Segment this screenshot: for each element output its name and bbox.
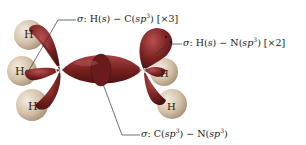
label-text: ) − N( <box>180 128 210 139</box>
label-text: 3 <box>253 36 257 43</box>
carbon-label: C <box>55 65 62 75</box>
label-text: ) − C( <box>107 13 136 24</box>
label-text: 3 <box>220 127 224 134</box>
label-text: ) [×2] <box>257 37 285 48</box>
label-text: : C( <box>148 128 165 139</box>
amine-group: H H N <box>139 28 187 119</box>
label-text: ) [×3] <box>150 13 178 24</box>
nh-bond-label: σ: H(s) − N(sp3) [×2] <box>183 38 285 48</box>
cn-sigma-bond <box>62 54 142 86</box>
label-text: sp <box>135 13 146 24</box>
cn-overlap-region <box>91 54 111 86</box>
ch-bond-label: σ: H(s) − C(sp3) [×3] <box>77 14 178 24</box>
label-text: : H( <box>190 37 208 48</box>
hydrogen-label: H <box>167 101 176 112</box>
label-text: ) <box>224 128 228 139</box>
cn-bond-label: σ: C(sp3) − N(sp3) <box>141 129 228 139</box>
label-text: 3 <box>146 12 150 19</box>
hydrogen-label: H <box>15 65 25 78</box>
hydrogen-label: H <box>24 28 34 41</box>
label-text: 3 <box>176 127 180 134</box>
label-text: sp <box>209 128 220 139</box>
methyl-group: H H H C <box>7 20 62 121</box>
label-text: sp <box>242 37 253 48</box>
nitrogen-label: N <box>139 66 146 75</box>
label-text: sp <box>165 128 176 139</box>
label-text: ) − N( <box>213 37 243 48</box>
cn-leader-line <box>103 84 140 135</box>
hydrogen-label: H <box>28 100 38 113</box>
label-text: : H( <box>84 13 102 24</box>
hydrogen-label: H <box>160 68 169 79</box>
